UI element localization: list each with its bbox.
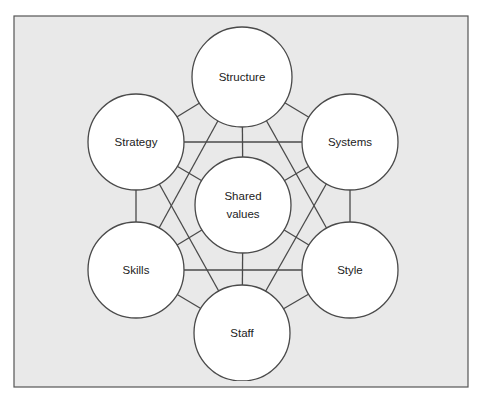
label-shared-values: values — [226, 208, 259, 220]
label-skills: Skills — [123, 264, 150, 276]
seven-s-diagram: StructureStrategySystemsSharedvaluesSkil… — [0, 0, 481, 410]
node-systems: Systems — [302, 94, 398, 190]
node-strategy: Strategy — [88, 94, 184, 190]
label-systems: Systems — [328, 136, 372, 148]
node-shared-values: Sharedvalues — [195, 157, 291, 253]
label-shared-values: Shared — [224, 190, 261, 202]
node-style: Style — [302, 222, 398, 318]
circle-shared-values — [195, 157, 291, 253]
label-strategy: Strategy — [115, 136, 158, 148]
node-skills: Skills — [88, 222, 184, 318]
node-structure: Structure — [192, 27, 292, 127]
node-staff: Staff — [194, 285, 290, 381]
label-structure: Structure — [219, 71, 266, 83]
label-style: Style — [337, 264, 363, 276]
label-staff: Staff — [230, 327, 254, 339]
